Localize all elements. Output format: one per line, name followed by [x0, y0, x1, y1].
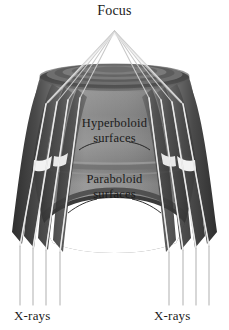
telescope-illustration	[0, 0, 229, 330]
paraboloid-surfaces-label: Paraboloid surfaces	[0, 172, 229, 202]
hyperboloid-label-line1: Hyperboloid	[0, 116, 229, 131]
xrays-right-label: X-rays	[154, 308, 191, 324]
figure-canvas: Focus Hyperboloid surfaces Paraboloid su…	[0, 0, 229, 330]
focus-label: Focus	[0, 3, 229, 19]
xray-beams-right	[169, 246, 209, 305]
paraboloid-label-line1: Paraboloid	[0, 172, 229, 187]
xray-beams-left	[20, 246, 60, 305]
hyperboloid-surfaces-label: Hyperboloid surfaces	[0, 116, 229, 146]
hyperboloid-label-line2: surfaces	[0, 131, 229, 146]
paraboloid-label-line2: surfaces	[0, 187, 229, 202]
xrays-left-label: X-rays	[14, 308, 51, 324]
